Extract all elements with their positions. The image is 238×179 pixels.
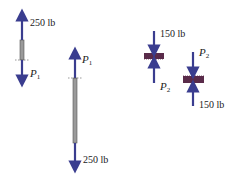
subscript: 2 <box>206 52 210 60</box>
subscript: 1 <box>89 59 93 67</box>
fbd2-top-label: P1 <box>82 54 92 67</box>
var-p: P <box>160 80 167 92</box>
fbd1-bottom-label: P1 <box>30 68 40 81</box>
fbd2-bottom-force-label: 250 lb <box>83 155 108 165</box>
fbd4-bottom-force-label: 150 lb <box>199 100 224 110</box>
fbd2-long-rod <box>68 53 82 167</box>
fbd4-top-label: P2 <box>199 47 209 60</box>
fbd1-short-rod <box>15 15 29 81</box>
subscript: 2 <box>167 86 171 94</box>
fbd3-top-force-label: 150 lb <box>160 29 185 39</box>
var-p: P <box>30 67 37 79</box>
fbd4-block <box>183 52 204 106</box>
fbd1-top-force-label: 250 lb <box>30 18 55 28</box>
var-p: P <box>82 53 89 65</box>
var-p: P <box>199 46 206 58</box>
subscript: 1 <box>37 73 41 81</box>
fbd3-bottom-label: P2 <box>160 81 170 94</box>
